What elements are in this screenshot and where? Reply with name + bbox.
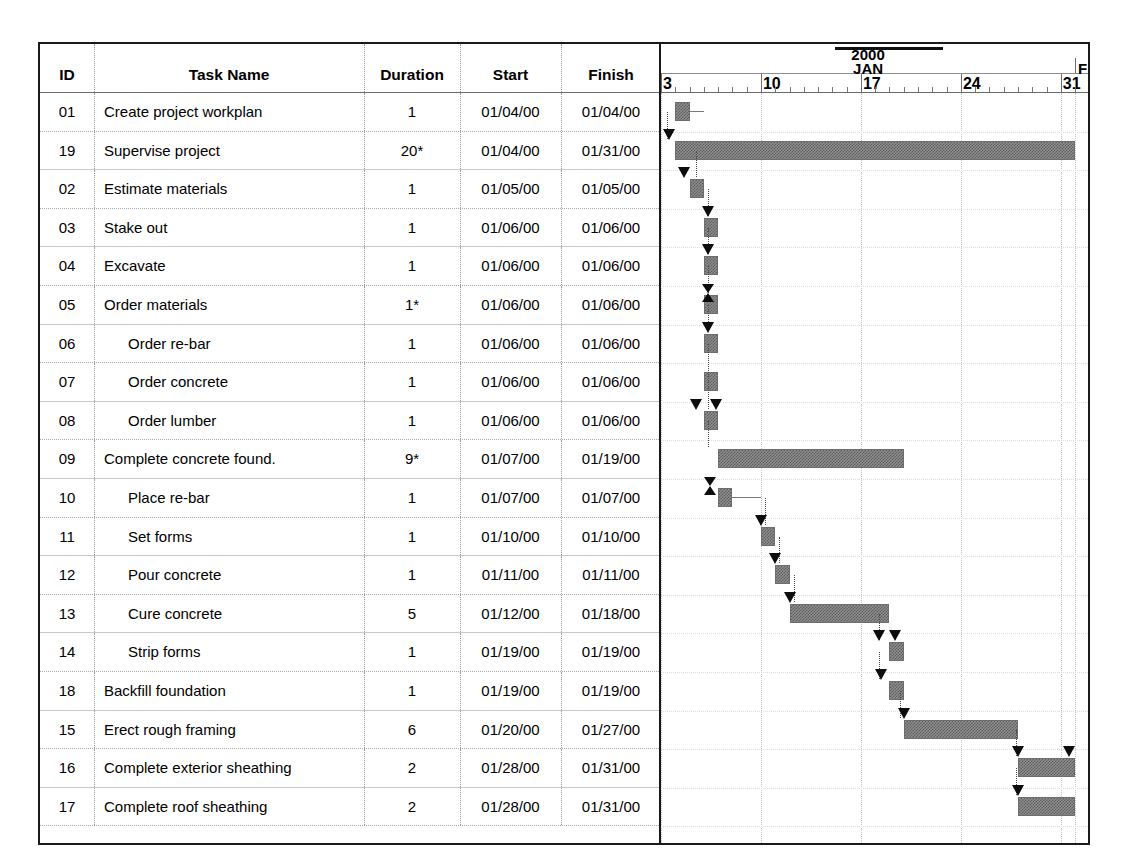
table-row[interactable]: 11Set forms101/10/0001/10/00 <box>40 518 659 557</box>
table-row[interactable]: 14Strip forms101/19/0001/19/00 <box>40 633 659 672</box>
column-header-finish[interactable]: Finish <box>561 44 661 93</box>
task-start-cell: 01/06/00 <box>460 247 561 286</box>
column-header-start[interactable]: Start <box>460 44 561 93</box>
week-gridline-tick <box>961 74 962 92</box>
table-row[interactable]: 08Order lumber101/06/0001/06/00 <box>40 402 659 441</box>
timeline-header: 2000 JAN F 310172431 <box>661 44 1088 93</box>
task-id-cell: 06 <box>40 325 94 364</box>
task-start-cell: 01/06/00 <box>460 363 561 402</box>
table-row[interactable]: 15Erect rough framing601/20/0001/27/00 <box>40 711 659 750</box>
gantt-bar[interactable] <box>690 179 704 198</box>
dependency-arrow-icon <box>690 399 702 410</box>
task-duration-cell: 1 <box>364 633 460 672</box>
gantt-bar[interactable] <box>675 102 689 121</box>
column-header-id[interactable]: ID <box>40 44 94 93</box>
gantt-bar[interactable] <box>1018 797 1075 816</box>
gantt-bar[interactable] <box>889 681 903 700</box>
week-tick-label: 31 <box>1063 75 1081 92</box>
table-row[interactable]: 01Create project workplan101/04/0001/04/… <box>40 93 659 132</box>
gantt-bar[interactable] <box>775 565 789 584</box>
month-divider <box>1075 58 1076 73</box>
task-id-cell: 19 <box>40 132 94 171</box>
task-start-cell: 01/06/00 <box>460 325 561 364</box>
table-row[interactable]: 03Stake out101/06/0001/06/00 <box>40 209 659 248</box>
task-duration-cell: 9* <box>364 440 460 479</box>
day-tick <box>904 87 905 92</box>
dependency-arrow-icon <box>898 708 910 719</box>
task-duration-cell: 1 <box>364 170 460 209</box>
dependency-link-line <box>696 151 697 178</box>
task-id-cell: 14 <box>40 633 94 672</box>
task-id-cell: 17 <box>40 788 94 827</box>
table-row[interactable]: 05Order materials1*01/06/0001/06/00 <box>40 286 659 325</box>
task-name-cell: Set forms <box>94 518 364 557</box>
gantt-bar[interactable] <box>904 720 1018 739</box>
table-row[interactable]: 02Estimate materials101/05/0001/05/00 <box>40 170 659 209</box>
table-row[interactable]: 19Supervise project20*01/04/0001/31/00 <box>40 132 659 171</box>
week-gridline-tick <box>661 74 662 92</box>
table-row[interactable]: 16Complete exterior sheathing201/28/0001… <box>40 749 659 788</box>
gantt-bar[interactable] <box>761 527 775 546</box>
task-duration-cell: 6 <box>364 711 460 750</box>
dependency-arrow-icon <box>678 167 690 178</box>
milestone-marker-icon <box>702 284 714 302</box>
gantt-bar[interactable] <box>704 411 718 430</box>
week-tick-label: 10 <box>763 75 781 92</box>
task-name-cell: Pour concrete <box>94 556 364 595</box>
gantt-bar[interactable] <box>718 449 904 468</box>
table-row[interactable]: 13Cure concrete501/12/0001/18/00 <box>40 595 659 634</box>
task-name-cell: Supervise project <box>94 132 364 171</box>
timeline-row-separator <box>661 556 1088 557</box>
dependency-arrow-icon <box>875 669 887 680</box>
table-row[interactable]: 04Excavate101/06/0001/06/00 <box>40 247 659 286</box>
timeline-row-separator <box>661 479 1088 480</box>
task-id-cell: 12 <box>40 556 94 595</box>
week-tick-label: 17 <box>863 75 881 92</box>
task-name-cell: Estimate materials <box>94 170 364 209</box>
table-row[interactable]: 06Order re-bar101/06/0001/06/00 <box>40 325 659 364</box>
column-header-duration[interactable]: Duration <box>364 44 460 93</box>
gantt-bar[interactable] <box>790 604 890 623</box>
day-tick <box>989 87 990 92</box>
gantt-bar[interactable] <box>704 334 718 353</box>
task-start-cell: 01/06/00 <box>460 402 561 441</box>
day-tick <box>1075 87 1076 92</box>
gantt-chart-frame: ID Task Name Duration Start Finish 01Cre… <box>38 42 1090 845</box>
gantt-bar[interactable] <box>889 642 903 661</box>
day-tick <box>875 87 876 92</box>
table-row[interactable]: 18Backfill foundation101/19/0001/19/00 <box>40 672 659 711</box>
task-duration-cell: 1 <box>364 556 460 595</box>
day-tick <box>1032 87 1033 92</box>
gantt-bar[interactable] <box>675 141 1075 160</box>
gantt-bar[interactable] <box>704 256 718 275</box>
task-id-cell: 16 <box>40 749 94 788</box>
timeline-row-separator <box>661 826 1088 827</box>
column-header-task-name[interactable]: Task Name <box>94 44 364 93</box>
gantt-bar[interactable] <box>718 488 732 507</box>
milestone-marker-icon <box>704 477 716 495</box>
task-duration-cell: 1 <box>364 93 460 132</box>
gantt-bar[interactable] <box>1018 758 1075 777</box>
task-duration-cell: 1 <box>364 247 460 286</box>
timeline-row-separator <box>661 132 1088 133</box>
table-row[interactable]: 17Complete roof sheathing201/28/0001/31/… <box>40 788 659 827</box>
task-finish-cell: 01/11/00 <box>561 556 661 595</box>
table-row[interactable]: 12Pour concrete101/11/0001/11/00 <box>40 556 659 595</box>
table-row[interactable]: 07Order concrete101/06/0001/06/00 <box>40 363 659 402</box>
day-tick <box>975 87 976 92</box>
task-start-cell: 01/12/00 <box>460 595 561 634</box>
task-finish-cell: 01/27/00 <box>561 711 661 750</box>
table-row[interactable]: 10Place re-bar101/07/0001/07/00 <box>40 479 659 518</box>
task-name-cell: Complete concrete found. <box>94 440 364 479</box>
task-start-cell: 01/19/00 <box>460 633 561 672</box>
gantt-bar[interactable] <box>704 372 718 391</box>
table-row[interactable]: 09Complete concrete found.9*01/07/0001/1… <box>40 440 659 479</box>
timeline-row-separator <box>661 402 1088 403</box>
task-id-cell: 13 <box>40 595 94 634</box>
task-finish-cell: 01/19/00 <box>561 633 661 672</box>
dependency-arrow-icon <box>702 244 714 255</box>
task-finish-cell: 01/05/00 <box>561 170 661 209</box>
gantt-bar[interactable] <box>704 218 718 237</box>
timeline-row-separator <box>661 170 1088 171</box>
table-header-row: ID Task Name Duration Start Finish <box>40 44 659 93</box>
